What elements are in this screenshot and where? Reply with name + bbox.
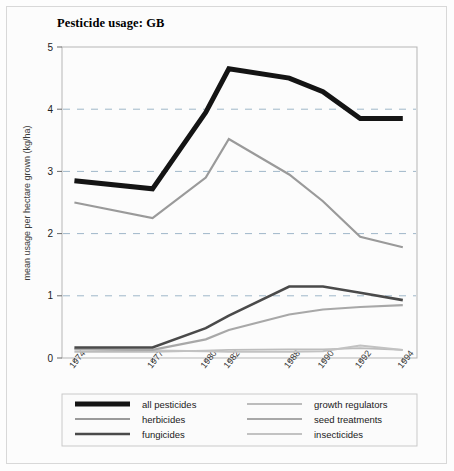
y-axis-title: mean usage per hectare grown (kg/ha) (22, 125, 32, 280)
y-tick-label: 4 (47, 104, 53, 115)
legend-label: insecticides (314, 429, 363, 440)
y-tick-label: 2 (47, 228, 53, 239)
y-tick-label: 3 (47, 166, 53, 177)
y-tick-label: 5 (47, 42, 53, 53)
legend-label: herbicides (142, 414, 186, 425)
legend-label: seed treatments (314, 414, 382, 425)
legend-label: growth regulators (314, 399, 388, 410)
legend-label: all pesticides (142, 399, 197, 410)
line-chart: 012345 19741977198019821988199019921994 … (0, 0, 454, 471)
y-axis: 012345 (47, 42, 62, 364)
y-tick-label: 0 (47, 353, 53, 364)
chart-legend: all pesticidesherbicidesfungicidesgrowth… (62, 394, 417, 446)
figure-page: Pesticide usage: GB 012345 1974197719801… (0, 0, 454, 471)
legend-label: fungicides (142, 429, 185, 440)
y-tick-label: 1 (47, 290, 53, 301)
